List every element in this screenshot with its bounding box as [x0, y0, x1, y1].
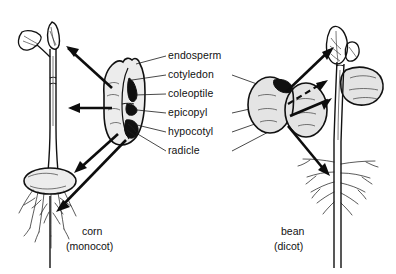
label-endosperm: endosperm	[168, 49, 222, 61]
corn-caption-group: (monocot)	[66, 240, 113, 252]
label-radicle: radicle	[168, 144, 200, 156]
label-epicopyl: epicopyl	[168, 106, 207, 118]
label-hypocotyl: hypocotyl	[168, 125, 213, 137]
corn-caption-name: corn	[82, 225, 103, 237]
label-cotyledon: cotyledon	[168, 68, 214, 80]
label-coleoptile: coleoptile	[168, 87, 213, 99]
diagram-canvas: corn (monocot) endosperm cotyledon coleo…	[0, 0, 396, 274]
bean-caption-name: bean	[281, 225, 305, 237]
bean-seedling-cotyledon	[341, 67, 383, 105]
corn-seed-section	[104, 58, 145, 145]
corn-kernel-outline	[104, 58, 145, 145]
bean-caption-group: (dicot)	[274, 240, 303, 252]
germination-diagram: corn (monocot) endosperm cotyledon coleo…	[0, 0, 396, 274]
corn-spent-seed	[24, 168, 76, 194]
